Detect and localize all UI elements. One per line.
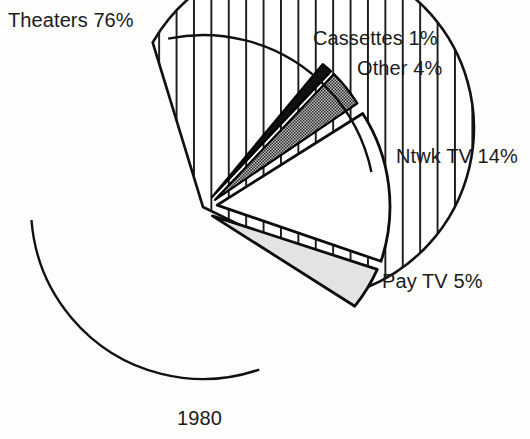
slice-label-cassettes: Cassettes 1% [313,26,438,50]
slice-label-other: Other 4% [357,56,442,80]
slice-label-theaters: Theaters 76% [8,8,134,32]
slice-label-ntwk-tv: Ntwk TV 14% [396,144,518,168]
chart-caption-year: 1980 [177,406,222,430]
pie-chart-canvas [0,0,530,439]
slice-label-pay-tv: Pay TV 5% [382,269,483,293]
pie-chart-figure: Theaters 76% Cassettes 1% Other 4% Ntwk … [0,0,530,439]
